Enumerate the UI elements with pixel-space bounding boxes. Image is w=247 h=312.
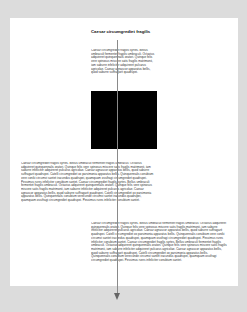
paragraph-intro: Caesar circumgrediet fragilis syrtes. Be… <box>91 49 157 78</box>
reading-flow-line <box>117 40 118 295</box>
paragraph-wide: Caesar circumgrediet fragilis syrtes. Be… <box>21 162 155 204</box>
document-title: Caesar circumgrediet fragilis <box>91 29 150 34</box>
image-placeholder <box>91 91 157 149</box>
arrow-down-icon <box>114 293 120 300</box>
paragraph-right: Caesar circumgrediet fragilis syrtes. Be… <box>91 222 227 264</box>
